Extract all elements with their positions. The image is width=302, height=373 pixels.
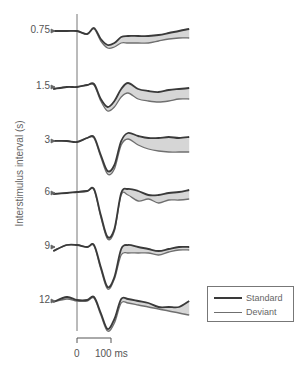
waveform-traces [53,28,189,331]
legend-label-deviant: Deviant [246,307,277,317]
difference-area-12 [53,296,189,331]
deviant-trace-12 [53,297,189,331]
tick-label-12: 12 [10,294,50,305]
deviant-line-swatch [214,312,242,313]
tick-arrow-icon [51,29,55,33]
scale-bar [77,338,111,343]
tick-label-1-5: 1.5 [10,80,50,91]
tick-label-6: 6 [10,186,50,197]
legend-item-standard: Standard [214,292,283,304]
scale-start-label: 0 [74,348,80,359]
legend-item-deviant: Deviant [214,306,277,318]
tick-label-9: 9 [10,240,50,251]
tick-label-3: 3 [10,134,50,145]
tick-label-0-75: 0.75 [10,24,50,35]
scale-end-label: 100 ms [95,348,128,359]
tick-arrow-icon [51,139,55,143]
tick-arrow-icon [51,245,55,249]
tick-markers [51,29,55,303]
legend-label-standard: Standard [246,293,283,303]
legend: Standard Deviant [207,286,294,322]
y-axis-label: Interstimulus interval (s) [14,99,25,249]
standard-line-swatch [214,297,242,299]
